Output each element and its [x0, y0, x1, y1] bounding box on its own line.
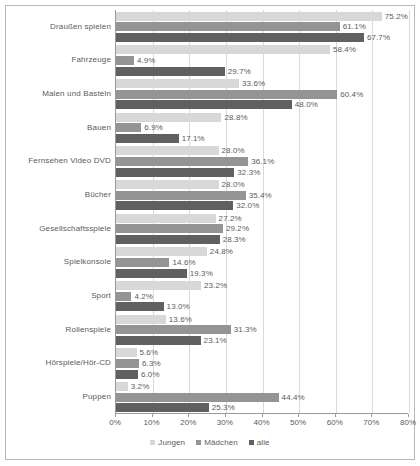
bar-jungen: [116, 79, 239, 88]
bar-line: 31.3%: [116, 325, 408, 334]
bar-maedchen: [116, 325, 231, 334]
x-tick: [335, 414, 336, 417]
bar-jungen: [116, 382, 128, 391]
bar-value-label: 23.1%: [204, 336, 227, 345]
bar-value-label: 27.2%: [219, 214, 242, 223]
bar-group: 3.2%44.4%25.3%: [116, 382, 408, 414]
bar-jungen: [116, 113, 221, 122]
bar-value-label: 4.2%: [134, 292, 153, 301]
bar-maedchen: [116, 157, 248, 166]
legend-item-jungen[interactable]: Jungen: [150, 438, 185, 447]
x-tick: [152, 414, 153, 417]
bar-group: 5.6%6.3%6.0%: [116, 348, 408, 380]
bar-group: 13.6%31.3%23.1%: [116, 315, 408, 347]
bar-value-label: 17.1%: [182, 134, 205, 143]
bar-line: 14.6%: [116, 258, 408, 267]
category-label: Malen und Basteln: [7, 89, 111, 99]
bar-line: 3.2%: [116, 382, 408, 391]
bar-line: 36.1%: [116, 157, 408, 166]
category-label: Rollenspiele: [7, 325, 111, 335]
x-tick-label: 70%: [363, 418, 379, 427]
bar-alle: [116, 201, 233, 210]
bar-value-label: 5.6%: [140, 348, 159, 357]
bar-alle: [116, 370, 138, 379]
legend-label: Jungen: [158, 438, 185, 447]
bar-line: 4.9%: [116, 56, 408, 65]
bar-value-label: 23.2%: [204, 281, 227, 290]
x-tick-label: 60%: [327, 418, 343, 427]
bar-value-label: 48.0%: [295, 100, 318, 109]
bar-line: 25.3%: [116, 403, 408, 412]
bar-line: 17.1%: [116, 134, 408, 143]
category-label: Fahrzeuge: [7, 55, 111, 65]
bar-line: 28.3%: [116, 235, 408, 244]
category-label: Hörspiele/Hör-CD: [7, 358, 111, 368]
category-label: Spielkonsole: [7, 257, 111, 267]
bar-line: 23.1%: [116, 336, 408, 345]
bar-group: 27.2%29.2%28.3%: [116, 214, 408, 246]
bar-value-label: 75.2%: [385, 12, 408, 21]
bar-line: 48.0%: [116, 100, 408, 109]
bar-value-label: 13.6%: [169, 315, 192, 324]
bar-group: 23.2%4.2%13.0%: [116, 281, 408, 313]
bar-alle: [116, 235, 220, 244]
bar-value-label: 29.2%: [226, 224, 249, 233]
bar-value-label: 28.0%: [222, 180, 245, 189]
bar-line: 35.4%: [116, 191, 408, 200]
bar-value-label: 24.8%: [210, 247, 233, 256]
bar-jungen: [116, 315, 166, 324]
category-row: Puppen3.2%44.4%25.3%: [116, 380, 408, 414]
bar-value-label: 32.0%: [236, 201, 259, 210]
chart-frame: Draußen spielen75.2%61.1%67.7%Fahrzeuge5…: [5, 5, 415, 460]
bar-value-label: 6.9%: [144, 123, 163, 132]
bar-jungen: [116, 12, 382, 21]
bar-line: 24.8%: [116, 247, 408, 256]
legend-swatch-icon: [150, 440, 155, 445]
bar-alle: [116, 403, 209, 412]
category-row: Rollenspiele13.6%31.3%23.1%: [116, 313, 408, 347]
bar-group: 24.8%14.6%19.3%: [116, 247, 408, 279]
legend-item-alle[interactable]: alle: [249, 438, 270, 447]
category-row: Draußen spielen75.2%61.1%67.7%: [116, 10, 408, 44]
bar-value-label: 6.0%: [141, 370, 160, 379]
bar-line: 28.0%: [116, 146, 408, 155]
x-tick: [298, 414, 299, 417]
bar-line: 6.0%: [116, 370, 408, 379]
bar-maedchen: [116, 56, 134, 65]
bar-value-label: 36.1%: [251, 157, 274, 166]
bar-maedchen: [116, 22, 340, 31]
x-tick: [408, 414, 409, 417]
bar-value-label: 58.4%: [333, 45, 356, 54]
legend-label: Mädchen: [204, 438, 238, 447]
bar-maedchen: [116, 393, 279, 402]
category-row: Bücher28.0%35.4%32.0%: [116, 178, 408, 212]
category-label: Fernsehen Video DVD: [7, 156, 111, 166]
bar-value-label: 29.7%: [228, 67, 251, 76]
category-row: Fahrzeuge58.4%4.9%29.7%: [116, 44, 408, 78]
bar-jungen: [116, 146, 219, 155]
bar-line: 32.0%: [116, 201, 408, 210]
bar-line: 67.7%: [116, 33, 408, 42]
bar-value-label: 28.0%: [222, 146, 245, 155]
bar-line: 58.4%: [116, 45, 408, 54]
bar-line: 23.2%: [116, 281, 408, 290]
bar-alle: [116, 100, 292, 109]
bar-maedchen: [116, 359, 139, 368]
bar-alle: [116, 33, 364, 42]
x-tick: [188, 414, 189, 417]
bar-group: 28.8%6.9%17.1%: [116, 113, 408, 145]
bar-line: 28.0%: [116, 180, 408, 189]
bar-line: 28.8%: [116, 113, 408, 122]
category-row: Bauen28.8%6.9%17.1%: [116, 111, 408, 145]
category-label: Bücher: [7, 190, 111, 200]
bar-line: 27.2%: [116, 214, 408, 223]
bar-value-label: 61.1%: [343, 22, 366, 31]
x-tick-label: 20%: [180, 418, 196, 427]
bar-value-label: 25.3%: [212, 403, 235, 412]
x-tick-label: 40%: [253, 418, 269, 427]
category-row: Sport23.2%4.2%13.0%: [116, 279, 408, 313]
bar-line: 5.6%: [116, 348, 408, 357]
bar-alle: [116, 134, 179, 143]
legend-item-maedchen[interactable]: Mädchen: [196, 438, 238, 447]
bar-jungen: [116, 281, 201, 290]
